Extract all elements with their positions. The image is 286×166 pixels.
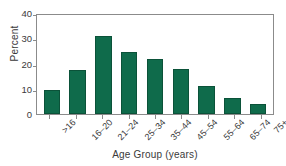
y-axis-tick-labels: 40 30 20 10 0 <box>10 0 32 166</box>
bar-slot <box>39 15 65 114</box>
x-tick-label: >16 <box>61 118 78 135</box>
bar-chart-figure: Percent 40 30 20 10 0 >1616–2021–2425–34… <box>0 0 286 166</box>
bar[interactable] <box>69 70 86 114</box>
plot-area <box>36 14 274 115</box>
x-tick-label: 75+ <box>272 118 286 135</box>
bar-slot <box>194 15 220 114</box>
y-tick-label-30: 30 <box>10 35 32 45</box>
bar[interactable] <box>147 59 164 114</box>
y-tick-label-0: 0 <box>10 110 32 120</box>
bar-slot <box>245 15 271 114</box>
bar[interactable] <box>121 52 138 114</box>
bar[interactable] <box>173 69 190 114</box>
bar-slot <box>116 15 142 114</box>
bar-slot <box>91 15 117 114</box>
y-tick-label-40: 40 <box>10 9 32 19</box>
bars-layer <box>37 15 273 114</box>
x-tick-label: 65–74 <box>249 118 273 142</box>
bar-slot <box>142 15 168 114</box>
bar[interactable] <box>198 86 215 114</box>
y-tick-mark-20 <box>33 66 37 67</box>
x-axis-tick-labels: >1616–2021–2425–3435–4445–5455–6465–7475… <box>36 118 274 146</box>
y-tick-label-20: 20 <box>10 60 32 70</box>
bar-slot <box>65 15 91 114</box>
bar-slot <box>168 15 194 114</box>
bar[interactable] <box>224 98 241 114</box>
x-tick-label: 25–34 <box>143 118 167 142</box>
bar[interactable] <box>250 104 267 114</box>
y-tick-mark-30 <box>33 40 37 41</box>
y-tick-mark-40 <box>33 15 37 16</box>
x-axis-title: Age Group (years) <box>36 149 274 160</box>
y-tick-label-10: 10 <box>10 85 32 95</box>
x-tick-label: 55–64 <box>222 118 246 142</box>
x-tick-label: 45–54 <box>196 118 220 142</box>
bar[interactable] <box>95 36 112 114</box>
x-tick-label: 21–24 <box>116 118 140 142</box>
x-tick-label: 16–20 <box>90 118 114 142</box>
y-tick-mark-10 <box>33 91 37 92</box>
bar-slot <box>219 15 245 114</box>
bar[interactable] <box>44 90 61 114</box>
x-tick-label: 35–44 <box>169 118 193 142</box>
